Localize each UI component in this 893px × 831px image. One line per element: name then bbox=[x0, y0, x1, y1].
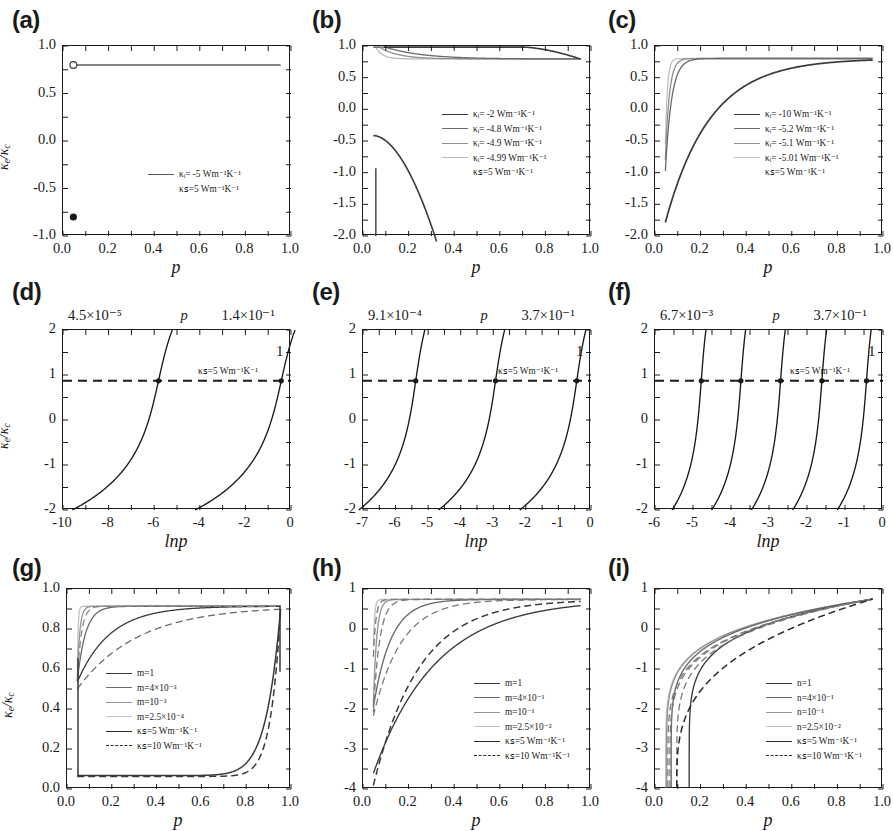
x-tick-label: 0.6 bbox=[479, 793, 519, 810]
legend-swatch-icon bbox=[474, 683, 500, 684]
legend-item: κᵢ= -5.2 Wm⁻¹K⁻¹ bbox=[734, 122, 839, 137]
x-tick-label: -2 bbox=[224, 514, 264, 531]
panel-d: (d)-10-8-6-4-20210-1-2lnpκe/κc4.5×10⁻⁵p1… bbox=[0, 272, 297, 547]
legend-label: κᵢ= -4.8 Wm⁻¹K⁻¹ bbox=[473, 122, 542, 137]
legend-a: κᵢ= -5 Wm⁻¹K⁻¹κꜱ=5 Wm⁻¹K⁻¹ bbox=[148, 167, 241, 196]
y-tick-label: 1.0 bbox=[316, 36, 356, 53]
legend-item: κᵢ= -4.8 Wm⁻¹K⁻¹ bbox=[442, 122, 547, 137]
crossing-marker bbox=[864, 378, 869, 383]
x-tick-label: 0.6 bbox=[771, 240, 811, 257]
x-tick-label: -4 bbox=[710, 514, 750, 531]
y-tick-label: 1.0 bbox=[16, 36, 56, 53]
panel-c: (c)0.00.20.40.60.81.01.00.50.0-0.5-1.0-1… bbox=[596, 0, 893, 275]
y-tick-label: 0.4 bbox=[20, 699, 60, 716]
y-tick-label: 1 bbox=[16, 365, 56, 382]
legend-swatch-icon bbox=[474, 712, 500, 713]
legend-label: κꜱ=10 Wm⁻¹K⁻¹ bbox=[137, 739, 202, 754]
panel-g: (g)0.00.20.40.60.81.01.00.80.60.40.20.0p… bbox=[0, 548, 297, 823]
legend-label: κᵢ= -2 Wm⁻¹K⁻¹ bbox=[473, 107, 535, 122]
x-tick-label: 0.4 bbox=[136, 793, 176, 810]
x-tick-label: 0.8 bbox=[816, 793, 856, 810]
legend-swatch-icon bbox=[734, 128, 760, 129]
inner-annotation: κꜱ=5 Wm⁻¹K⁻¹ bbox=[790, 365, 850, 376]
x-tick-label: 1.0 bbox=[862, 793, 893, 810]
y-tick-label: 0 bbox=[316, 410, 356, 427]
legend-item: κꜱ=10 Wm⁻¹K⁻¹ bbox=[474, 749, 570, 764]
panel-f: (f)-6-5-4-3-2-10210-1-2lnp6.7×10⁻³p3.7×1… bbox=[596, 272, 893, 547]
panel-label-a: (a) bbox=[12, 6, 40, 34]
y-tick-label: 0.0 bbox=[16, 131, 56, 148]
legend-swatch-icon bbox=[474, 755, 500, 756]
y-tick-label: 2 bbox=[316, 320, 356, 337]
y-tick-label: 0.5 bbox=[316, 68, 356, 85]
legend-label: κꜱ=5 Wm⁻¹K⁻¹ bbox=[765, 165, 825, 180]
legend-item: m=1 bbox=[474, 676, 570, 691]
legend-h: m=1m=4×10⁻¹m=10⁻¹m=2.5×10⁻²κꜱ=5 Wm⁻¹K⁻¹κ… bbox=[474, 676, 570, 763]
legend-label: m=2.5×10⁻⁴ bbox=[137, 710, 184, 725]
y-tick-label: 0.0 bbox=[608, 99, 648, 116]
y-tick-label: -1.5 bbox=[608, 194, 648, 211]
legend-label: m=1 bbox=[137, 666, 154, 681]
panel-label-f: (f) bbox=[608, 278, 630, 306]
x-tick-label: 0.8 bbox=[524, 240, 564, 257]
y-tick-label: -2 bbox=[316, 699, 356, 716]
x-tick-label: 0.6 bbox=[180, 793, 220, 810]
legend-item: n=10⁻¹ bbox=[766, 705, 862, 720]
legend-swatch-icon bbox=[766, 726, 792, 727]
x-tick-label: -4 bbox=[179, 514, 219, 531]
y-tick-label: -1 bbox=[316, 455, 356, 472]
legend-item: κꜱ=5 Wm⁻¹K⁻¹ bbox=[442, 165, 547, 180]
legend-label: m=10⁻¹ bbox=[505, 705, 535, 720]
right-annotation: 1 bbox=[868, 343, 876, 360]
legend-item: κᵢ= -4.9 Wm⁻¹K⁻¹ bbox=[442, 136, 547, 151]
legend-b: κᵢ= -2 Wm⁻¹K⁻¹κᵢ= -4.8 Wm⁻¹K⁻¹κᵢ= -4.9 W… bbox=[442, 107, 547, 180]
y-tick-label: 0 bbox=[608, 410, 648, 427]
x-tick-label: 0.8 bbox=[816, 240, 856, 257]
curves-f bbox=[655, 330, 883, 510]
panel-label-d: (d) bbox=[12, 278, 41, 306]
y-tick-label: -1 bbox=[316, 659, 356, 676]
legend-i: n=1n=4×10⁻¹n=10⁻¹n=2.5×10⁻²κꜱ=5 Wm⁻¹K⁻¹κ… bbox=[766, 676, 862, 763]
y-tick-label: 0 bbox=[16, 410, 56, 427]
legend-swatch-icon bbox=[442, 128, 468, 129]
legend-item: m=2.5×10⁻² bbox=[474, 720, 570, 735]
crossing-marker bbox=[699, 378, 704, 383]
y-tick-label: 1 bbox=[316, 365, 356, 382]
top-annotation: p bbox=[181, 307, 188, 324]
legend-label: κᵢ= -5.2 Wm⁻¹K⁻¹ bbox=[765, 122, 834, 137]
y-tick-label: 0 bbox=[316, 619, 356, 636]
plot-area-a bbox=[62, 45, 290, 235]
y-tick-label: 1 bbox=[608, 579, 648, 596]
legend-swatch-icon bbox=[148, 174, 174, 175]
y-tick-label: 0.0 bbox=[316, 99, 356, 116]
legend-item: κꜱ=10 Wm⁻¹K⁻¹ bbox=[766, 749, 862, 764]
legend-label: m=4×10⁻³ bbox=[137, 681, 176, 696]
legend-label: κꜱ=10 Wm⁻¹K⁻¹ bbox=[505, 749, 570, 764]
legend-item: m=10⁻¹ bbox=[474, 705, 570, 720]
x-axis-title: p bbox=[748, 810, 788, 831]
crossing-marker bbox=[156, 378, 161, 383]
legend-swatch-icon bbox=[442, 114, 468, 115]
x-tick-label: -8 bbox=[88, 514, 128, 531]
legend-item: κꜱ=5 Wm⁻¹K⁻¹ bbox=[148, 182, 241, 197]
x-tick-label: 0.6 bbox=[479, 240, 519, 257]
legend-swatch-icon bbox=[442, 157, 468, 158]
y-tick-label: -1.0 bbox=[316, 163, 356, 180]
top-annotation: p bbox=[481, 307, 488, 324]
legend-label: m=10⁻³ bbox=[137, 695, 167, 710]
legend-swatch-icon bbox=[474, 697, 500, 698]
y-axis-title: κe/κc bbox=[0, 144, 12, 170]
legend-swatch-icon bbox=[766, 755, 792, 756]
crossing-marker bbox=[738, 378, 743, 383]
y-tick-label: -1 bbox=[608, 659, 648, 676]
y-tick-label: -1 bbox=[16, 455, 56, 472]
y-tick-label: -0.5 bbox=[608, 131, 648, 148]
legend-swatch-icon bbox=[106, 745, 132, 746]
legend-label: κᵢ= -4.99 Wm⁻¹K⁻¹ bbox=[473, 151, 547, 166]
legend-item: κꜱ=10 Wm⁻¹K⁻¹ bbox=[106, 739, 202, 754]
x-tick-label: 0.4 bbox=[433, 240, 473, 257]
legend-swatch-icon bbox=[106, 687, 132, 688]
panel-h: (h)0.00.20.40.60.81.010-1-2-3-4pm=1m=4×1… bbox=[300, 548, 597, 823]
top-annotation: 4.5×10⁻⁵ bbox=[68, 307, 122, 324]
y-axis-title: κe/κc bbox=[0, 423, 12, 449]
